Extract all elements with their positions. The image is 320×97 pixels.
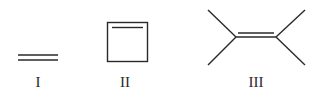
structure-i-ethylene — [18, 55, 58, 60]
structure-label-ii: II — [105, 74, 145, 91]
structure-ii-cyclobutene — [108, 23, 148, 62]
structure-label-i: I — [18, 74, 58, 91]
structure-label-iii: III — [236, 74, 276, 91]
structure-iii-tetramethylethylene — [208, 10, 305, 65]
